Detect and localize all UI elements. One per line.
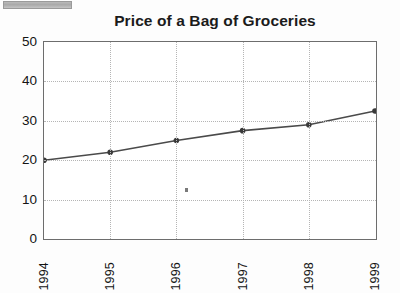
data-series-line: [44, 111, 375, 160]
y-tick-label: 10: [7, 191, 37, 206]
x-tick-label: 1998: [302, 262, 316, 291]
y-tick-label: 20: [7, 152, 37, 167]
gridline-horizontal: [44, 160, 376, 161]
x-axis-tick-labels: 199419951996199719981999: [43, 243, 377, 291]
y-tick-label: 40: [7, 73, 37, 88]
gridline-vertical: [309, 42, 310, 239]
x-tick-label: 1997: [236, 262, 250, 291]
x-tick-label: 1995: [103, 262, 117, 291]
x-tick-label: 1999: [368, 262, 382, 291]
gridline-horizontal: [44, 121, 376, 122]
gridline-vertical: [110, 42, 111, 239]
chart-page: Price of a Bag of Groceries 01020304050 …: [0, 0, 400, 293]
line-chart-svg: [44, 42, 376, 239]
y-tick-label: 50: [7, 34, 37, 49]
scan-artifact-bar: [3, 1, 72, 9]
gridline-vertical: [176, 42, 177, 239]
plot-area: [43, 41, 377, 240]
gridline-horizontal: [44, 81, 376, 82]
chart-title: Price of a Bag of Groceries: [40, 12, 390, 30]
x-tick-label: 1996: [169, 262, 183, 291]
page-speck-artifact: [185, 188, 188, 192]
x-tick-label: 1994: [37, 262, 51, 291]
gridline-vertical: [243, 42, 244, 239]
y-axis-tick-labels: 01020304050: [3, 41, 37, 240]
y-tick-label: 30: [7, 112, 37, 127]
data-point-marker: [372, 108, 376, 114]
y-tick-label: 0: [7, 231, 37, 246]
gridline-horizontal: [44, 200, 376, 201]
